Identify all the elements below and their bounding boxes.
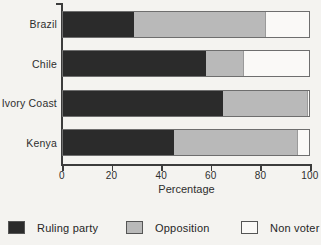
category-label: Brazil: [0, 18, 57, 30]
legend-label: Ruling party: [37, 222, 98, 234]
category-label: Chile: [0, 58, 57, 70]
bar-segment: [297, 130, 309, 155]
bar-segment: [307, 91, 309, 116]
legend-swatch: [126, 221, 143, 234]
bar-segment: [63, 130, 174, 155]
stacked-bar-chart: BrazilChileIvory CoastKenya 020406080100…: [0, 0, 321, 245]
legend-label: Opposition: [155, 222, 210, 234]
legend-swatch: [241, 221, 258, 234]
y-axis-top-tick: [56, 3, 62, 5]
legend-item: Opposition: [126, 221, 210, 234]
bar-segment: [174, 130, 297, 155]
bar-segment: [63, 51, 206, 76]
bar-segment: [265, 12, 309, 37]
x-axis-tick-label: 100: [301, 170, 318, 182]
bar-row: [62, 129, 310, 156]
legend: Ruling partyOppositionNon voter: [0, 221, 321, 241]
legend-item: Ruling party: [8, 221, 98, 234]
legend-label: Non voter: [270, 222, 320, 234]
bar-segment: [223, 91, 307, 116]
x-axis-tick-label: 40: [155, 170, 167, 182]
legend-item: Non voter: [241, 221, 320, 234]
category-label: Kenya: [0, 137, 57, 149]
x-axis-title: Percentage: [62, 183, 311, 195]
bar-row: [62, 11, 310, 38]
bar-segment: [243, 51, 309, 76]
x-axis-tick-label: 0: [59, 170, 65, 182]
x-axis-line: [61, 164, 312, 166]
bar-segment: [134, 12, 264, 37]
legend-swatch: [8, 221, 25, 234]
x-axis-tick-label: 60: [205, 170, 217, 182]
x-axis-tick-label: 80: [255, 170, 267, 182]
x-axis-tick-label: 20: [106, 170, 118, 182]
bar-row: [62, 50, 310, 77]
bar-row: [62, 90, 310, 117]
category-label: Ivory Coast: [0, 97, 57, 109]
bar-segment: [63, 12, 134, 37]
bar-segment: [63, 91, 223, 116]
bar-segment: [206, 51, 243, 76]
